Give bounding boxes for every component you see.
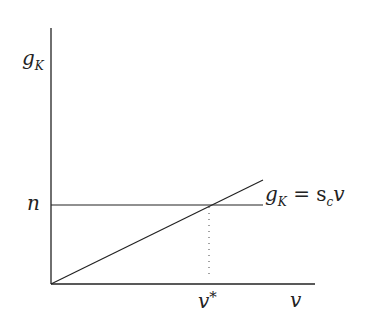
savings-line bbox=[51, 180, 263, 284]
x-axis-label: v bbox=[290, 290, 301, 310]
y-axis-label: gK bbox=[22, 48, 44, 72]
curve-label: gK = scv bbox=[265, 184, 345, 208]
diagram-canvas bbox=[0, 0, 377, 323]
v-star-label: v* bbox=[198, 290, 217, 311]
n-label: n bbox=[27, 193, 40, 213]
